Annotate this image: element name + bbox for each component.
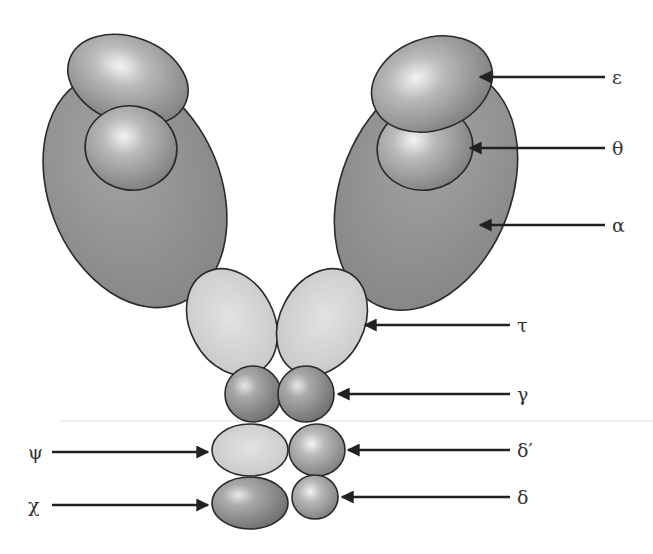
label-delta: δ [517, 486, 528, 508]
label-psi: ψ [28, 441, 43, 463]
gamma-subunit-right [278, 366, 334, 422]
psi-subunit [212, 424, 288, 476]
label-gamma: γ [517, 383, 528, 405]
label-alpha: α [612, 214, 625, 236]
gamma-subunit-left [225, 366, 281, 422]
label-tau: τ [517, 314, 528, 336]
label-theta: θ [612, 137, 623, 159]
delta-subunit [292, 475, 338, 519]
label-epsilon: ε [612, 66, 622, 88]
label-chi: χ [28, 494, 40, 516]
delta-prime-subunit [289, 424, 345, 476]
label-delta-prime: δ′ [517, 439, 533, 461]
polymerase-holoenzyme-diagram: ε θ α τ γ δ′ δ ψ χ [0, 0, 653, 554]
chi-subunit [212, 477, 288, 529]
